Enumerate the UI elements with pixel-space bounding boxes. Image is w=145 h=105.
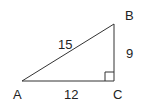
vertex-label-b: B [125, 9, 134, 22]
vertex-label-c: C [113, 88, 122, 101]
vertex-label-a: A [13, 88, 22, 101]
side-label-bc: 9 [126, 47, 133, 60]
triangle-abc [22, 24, 114, 81]
side-label-ac: 12 [64, 88, 78, 101]
right-angle-marker [105, 72, 114, 81]
side-label-ab: 15 [58, 38, 72, 51]
